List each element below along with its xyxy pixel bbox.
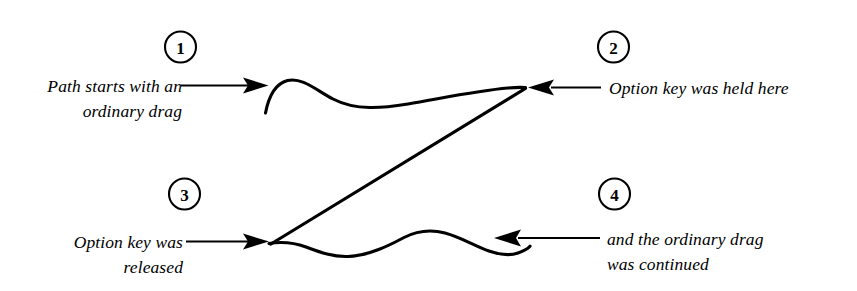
step-badge-1-number: 1 xyxy=(176,39,185,58)
step-badge-4: 4 xyxy=(599,179,630,210)
step-badge-4-number: 4 xyxy=(610,186,619,205)
step-badge-1: 1 xyxy=(165,32,196,63)
callout-4-arrowhead-icon xyxy=(494,230,521,247)
callout-2-arrowhead-icon xyxy=(528,80,554,96)
callout-2-label: Option key was held here xyxy=(609,76,857,101)
lower-freehand-curve xyxy=(269,231,530,257)
callout-4-arrow xyxy=(494,230,600,247)
callout-3-label: Option key was released xyxy=(0,230,183,280)
step-badge-2: 2 xyxy=(598,32,629,63)
callout-1-label: Path starts with an ordinary drag xyxy=(0,74,182,124)
option-constrained-straight-segment xyxy=(271,88,526,244)
step-badge-2-number: 2 xyxy=(609,39,618,58)
callout-2-arrow xyxy=(528,80,601,96)
upper-freehand-curve xyxy=(266,80,526,113)
option-drag-figure: 1 2 3 4 xyxy=(0,0,857,291)
callout-1-arrow xyxy=(181,78,269,94)
callout-3-arrow xyxy=(186,234,269,250)
step-badge-3: 3 xyxy=(169,179,200,210)
callout-4-label: and the ordinary drag was continued xyxy=(607,227,857,277)
step-badge-3-number: 3 xyxy=(180,186,189,205)
